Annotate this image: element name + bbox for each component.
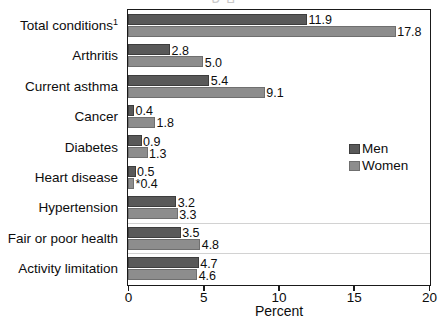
- bar-women-cancer: [128, 117, 155, 128]
- group-separator-line: [128, 223, 430, 224]
- category-label-activity-limitation: Activity limitation: [0, 262, 118, 276]
- bar-value-label: 3.5: [182, 227, 199, 239]
- bar-value-label: 4.6: [199, 270, 216, 282]
- x-axis-ticks: 05101520: [127, 286, 431, 304]
- bar-women-activity-limitation: [128, 269, 197, 280]
- legend-swatch-men-icon: [349, 144, 360, 154]
- bar-women-total-conditions: [128, 26, 396, 37]
- bar-men-diabetes: [128, 135, 142, 146]
- legend-item-women: Women: [349, 157, 408, 174]
- bar-value-label: 3.2: [178, 197, 195, 209]
- bar-men-arthritis: [128, 44, 170, 55]
- bar-value-label: 2.8: [172, 45, 189, 57]
- category-label-heart-disease: Heart disease: [0, 171, 118, 185]
- cropped-title-remnant: ם ש: [0, 0, 447, 5]
- legend-label: Women: [362, 157, 408, 174]
- category-label-hypertension: Hypertension: [0, 201, 118, 215]
- bar-value-label: 5.0: [205, 57, 222, 69]
- cropped-title-remnant-text: ם ש: [211, 0, 236, 5]
- legend-label: Men: [362, 140, 388, 157]
- category-axis-labels: Total conditions1ArthritisCurrent asthma…: [0, 9, 122, 286]
- bar-value-label: 4.8: [202, 239, 219, 251]
- legend-swatch-women-icon: [349, 161, 360, 171]
- bar-value-label: *0.4: [136, 178, 158, 190]
- category-label-arthritis: Arthritis: [0, 49, 118, 63]
- category-label-diabetes: Diabetes: [0, 141, 118, 155]
- bar-men-hypertension: [128, 196, 176, 207]
- bar-value-label: 0.4: [136, 105, 153, 117]
- bar-women-arthritis: [128, 56, 203, 67]
- group-separator-line: [128, 253, 430, 254]
- bar-women-current-asthma: [128, 87, 265, 98]
- bar-men-current-asthma: [128, 75, 209, 86]
- bar-value-label: 1.8: [157, 117, 174, 129]
- bar-women-hypertension: [128, 208, 178, 219]
- bar-men-heart-disease: [128, 166, 136, 177]
- bar-value-label: 1.3: [149, 148, 166, 160]
- legend-item-men: Men: [349, 140, 408, 157]
- bar-men-activity-limitation: [128, 257, 199, 268]
- bar-men-fair-or-poor-health: [128, 227, 181, 238]
- category-label-total-conditions: Total conditions1: [0, 19, 118, 33]
- footnote-marker: 1: [113, 16, 118, 26]
- bar-value-label: 4.7: [200, 258, 217, 270]
- bar-value-label: 11.9: [308, 14, 331, 26]
- bar-women-diabetes: [128, 147, 148, 158]
- category-label-current-asthma: Current asthma: [0, 80, 118, 94]
- bar-women-heart-disease: [128, 178, 134, 189]
- bar-value-label: 5.4: [211, 75, 228, 87]
- bar-value-label: 17.8: [397, 26, 421, 38]
- bar-women-fair-or-poor-health: [128, 239, 200, 250]
- bar-men-total-conditions: [128, 14, 307, 25]
- bar-chart: ם ש Total conditions1ArthritisCurrent as…: [0, 0, 447, 327]
- bar-value-label: 9.1: [266, 87, 283, 99]
- x-axis-title: Percent: [127, 303, 431, 319]
- category-label-cancer: Cancer: [0, 110, 118, 124]
- category-label-fair-or-poor-health: Fair or poor health: [0, 232, 118, 246]
- bar-men-cancer: [128, 105, 134, 116]
- chart-legend: MenWomen: [349, 140, 408, 174]
- bar-value-label: 3.3: [179, 209, 196, 221]
